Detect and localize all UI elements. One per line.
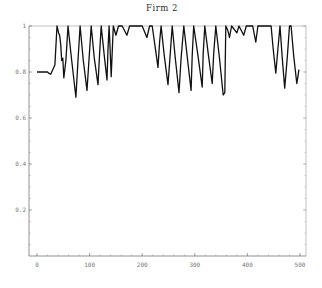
x-axis: 0100200300400500: [35, 253, 306, 268]
x-tick-label: 200: [137, 261, 148, 268]
plot-frame: [29, 26, 306, 256]
y-axis: 0.20.40.60.81: [15, 22, 306, 245]
series-line-firm-2: [37, 26, 299, 97]
y-tick-label: 1: [22, 22, 26, 29]
x-tick-label: 100: [84, 261, 95, 268]
x-tick-label: 300: [189, 261, 200, 268]
y-tick-label: 0.2: [15, 206, 26, 213]
y-tick-label: 0.8: [15, 68, 26, 75]
chart-title: Firm 2: [146, 3, 178, 13]
y-tick-label: 0.6: [15, 114, 26, 121]
line-chart: Firm 2 0.20.40.60.81 0100200300400500: [0, 0, 322, 288]
x-tick-label: 400: [242, 261, 253, 268]
x-tick-label: 500: [295, 261, 306, 268]
x-tick-label: 0: [35, 261, 39, 268]
y-tick-label: 0.4: [15, 160, 26, 167]
